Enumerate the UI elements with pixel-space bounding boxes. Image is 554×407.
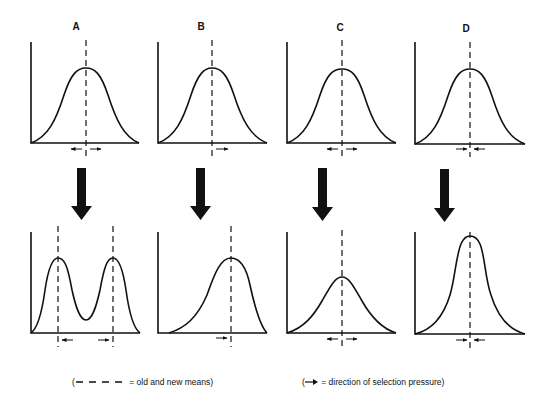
panel-c-after: [287, 230, 396, 347]
selection-diagram: [0, 0, 554, 407]
axes: [31, 232, 140, 333]
panel-label-b: B: [191, 21, 211, 32]
panel-label-c: C: [330, 22, 350, 33]
panel-label-d: D: [456, 23, 476, 34]
down-arrow-c: [312, 168, 333, 221]
normal-curve: [31, 68, 139, 143]
axes: [158, 232, 267, 333]
panel-d-after: [415, 232, 525, 348]
legend-pressure-text: = direction of selection pressure): [321, 377, 444, 387]
panel-c-before: [287, 40, 396, 156]
panel-b-after: [158, 226, 267, 347]
down-arrow-d: [434, 169, 455, 222]
shifted-curve: [169, 258, 267, 333]
bimodal-curve: [31, 258, 140, 333]
panel-a-after: [31, 226, 140, 347]
down-arrow-b: [190, 168, 211, 220]
legend-means: ( = old and new means): [72, 377, 213, 388]
panel-d-before: [415, 42, 525, 157]
panel-label-a: A: [66, 21, 86, 32]
down-arrow-a: [71, 168, 92, 220]
legend-means-text: = old and new means): [129, 377, 213, 387]
dashed-line-icon: [75, 378, 127, 388]
legend-pressure: ( = direction of selection pressure): [302, 377, 444, 388]
arrow-right-icon: [305, 378, 319, 388]
panel-b-before: [158, 40, 267, 156]
panel-a-before: [31, 40, 139, 156]
